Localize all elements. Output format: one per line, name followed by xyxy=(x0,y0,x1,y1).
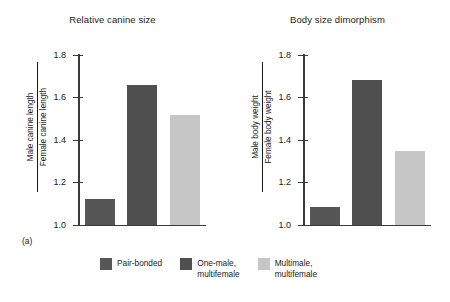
legend-item-one-male-multifemale: One-male, multifemale xyxy=(180,258,239,279)
figure-root: Relative canine size Male canine length … xyxy=(0,0,450,302)
legend-label-multimale-multifemale: Multimale, multifemale xyxy=(275,258,317,279)
y-tick-b-0: 1.0 xyxy=(298,225,308,226)
y-tick-label-b-3: 1.6 xyxy=(278,93,291,102)
legend-label-pair-bonded: Pair-bonded xyxy=(117,258,162,269)
chart-panel-b: Body size dimorphism Male body weight Fe… xyxy=(225,0,450,250)
legend-swatch-pair-bonded xyxy=(100,258,112,270)
plot-area-b: 1.0 1.2 1.4 1.6 1.8 xyxy=(303,54,431,226)
y-tick-label-b-0: 1.0 xyxy=(278,221,291,230)
bar-b-one-male-multifemale xyxy=(352,80,382,224)
legend-label-one-male-multifemale: One-male, multifemale xyxy=(197,258,239,279)
y-tick-label-b-2: 1.4 xyxy=(278,136,291,145)
y-axis-label-b: Male body weight Female body weight xyxy=(251,62,285,192)
y-tick-a-0: 1.0 xyxy=(73,225,83,226)
legend-swatch-multimale-multifemale xyxy=(258,258,270,270)
x-axis-line-b xyxy=(303,225,431,227)
y-tick-label-a-1: 1.2 xyxy=(53,178,66,187)
y-axis-label-a: Male canine length Female canine length xyxy=(26,62,60,192)
y-tick-label-b-4: 1.8 xyxy=(278,51,291,60)
bar-group-a xyxy=(79,54,206,225)
y-tick-label-a-4: 1.8 xyxy=(53,51,66,60)
bar-b-pair-bonded xyxy=(310,207,340,224)
legend-item-pair-bonded: Pair-bonded xyxy=(100,258,162,270)
chart-panel-a: Relative canine size Male canine length … xyxy=(0,0,225,250)
y-tick-label-a-2: 1.4 xyxy=(53,136,66,145)
plot-area-a: 1.0 1.2 1.4 1.6 1.8 xyxy=(78,54,206,226)
bar-a-one-male-multifemale xyxy=(127,85,157,225)
y-axis-denominator-a: Female canine length xyxy=(38,86,49,168)
y-tick-label-a-3: 1.6 xyxy=(53,93,66,102)
x-axis-line-a xyxy=(78,225,206,227)
y-axis-numerator-b: Male body weight xyxy=(251,93,262,161)
legend-item-multimale-multifemale: Multimale, multifemale xyxy=(258,258,317,279)
bar-a-pair-bonded xyxy=(85,199,115,225)
y-tick-label-a-0: 1.0 xyxy=(53,221,66,230)
bar-b-multimale-multifemale xyxy=(395,151,425,224)
chart-title-b: Body size dimorphism xyxy=(225,14,450,25)
y-tick-label-b-1: 1.2 xyxy=(278,178,291,187)
panel-letter-a: (a) xyxy=(22,236,32,246)
y-axis-denominator-b: Female body weight xyxy=(263,88,274,165)
chart-title-a: Relative canine size xyxy=(0,14,225,25)
bar-group-b xyxy=(304,54,431,225)
chart-legend: Pair-bonded One-male, multifemale Multim… xyxy=(100,258,317,279)
y-axis-numerator-a: Male canine length xyxy=(26,91,37,164)
legend-swatch-one-male-multifemale xyxy=(180,258,192,270)
bar-a-multimale-multifemale xyxy=(170,115,200,225)
